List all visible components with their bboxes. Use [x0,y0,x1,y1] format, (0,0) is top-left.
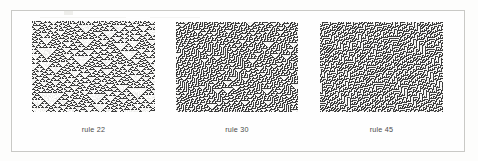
automaton-panel-rule-30 [176,22,298,112]
figure-root: rule 22 rule 30 rule 45 [0,0,478,161]
caption-rule-45: rule 45 [320,125,443,134]
caption-rule-22: rule 22 [32,125,155,134]
automata-panel-group: rule 22 rule 30 rule 45 [0,0,478,161]
automaton-panel-rule-22 [32,21,155,112]
automaton-canvas-rule-30 [176,22,298,112]
automaton-canvas-rule-45 [320,22,443,112]
caption-rule-30: rule 30 [176,125,298,134]
automaton-panel-rule-45 [320,22,443,112]
automaton-canvas-rule-22 [32,21,155,112]
